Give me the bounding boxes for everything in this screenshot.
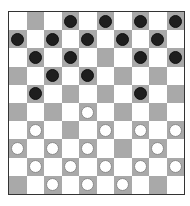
board-square-r6-c6 [114, 121, 132, 139]
board-square-r9-c4[interactable] [79, 176, 97, 194]
white-piece[interactable] [29, 160, 42, 173]
black-piece[interactable] [29, 87, 42, 100]
white-piece[interactable] [81, 106, 94, 119]
black-piece[interactable] [64, 15, 77, 28]
black-piece[interactable] [134, 87, 147, 100]
board-square-r5-c6[interactable] [114, 103, 132, 121]
board-square-r5-c4[interactable] [79, 103, 97, 121]
board-square-r8-c1[interactable] [27, 158, 45, 176]
board-square-r8-c4 [79, 158, 97, 176]
board-square-r2-c6 [114, 48, 132, 66]
board-square-r7-c6[interactable] [114, 139, 132, 157]
board-square-r2-c7[interactable] [132, 48, 150, 66]
board-square-r0-c3[interactable] [62, 12, 80, 30]
white-piece[interactable] [134, 160, 147, 173]
board-square-r1-c2[interactable] [44, 30, 62, 48]
white-piece[interactable] [81, 178, 94, 191]
board-square-r0-c1[interactable] [27, 12, 45, 30]
black-piece[interactable] [116, 33, 129, 46]
board-square-r4-c5[interactable] [97, 85, 115, 103]
board-square-r1-c1 [27, 30, 45, 48]
board-square-r6-c5[interactable] [97, 121, 115, 139]
board-square-r6-c8 [149, 121, 167, 139]
board-square-r3-c0[interactable] [9, 67, 27, 85]
black-piece[interactable] [134, 51, 147, 64]
board-square-r1-c4[interactable] [79, 30, 97, 48]
board-square-r5-c7 [132, 103, 150, 121]
board-square-r7-c0[interactable] [9, 139, 27, 157]
white-piece[interactable] [151, 142, 164, 155]
white-piece[interactable] [29, 124, 42, 137]
board-square-r8-c9[interactable] [167, 158, 185, 176]
board-square-r4-c9[interactable] [167, 85, 185, 103]
board-square-r5-c8[interactable] [149, 103, 167, 121]
white-piece[interactable] [46, 142, 59, 155]
board-square-r0-c0 [9, 12, 27, 30]
board-square-r9-c6[interactable] [114, 176, 132, 194]
board-square-r5-c9 [167, 103, 185, 121]
black-piece[interactable] [134, 15, 147, 28]
board-square-r6-c9[interactable] [167, 121, 185, 139]
board-square-r2-c3[interactable] [62, 48, 80, 66]
black-piece[interactable] [81, 69, 94, 82]
black-piece[interactable] [46, 69, 59, 82]
board-square-r3-c4[interactable] [79, 67, 97, 85]
white-piece[interactable] [116, 178, 129, 191]
white-piece[interactable] [99, 124, 112, 137]
board-square-r9-c0[interactable] [9, 176, 27, 194]
board-square-r0-c2 [44, 12, 62, 30]
white-piece[interactable] [64, 160, 77, 173]
board-square-r5-c2[interactable] [44, 103, 62, 121]
board-square-r2-c5[interactable] [97, 48, 115, 66]
board-square-r8-c7[interactable] [132, 158, 150, 176]
black-piece[interactable] [11, 33, 24, 46]
board-square-r3-c8[interactable] [149, 67, 167, 85]
white-piece[interactable] [134, 124, 147, 137]
board-square-r2-c1[interactable] [27, 48, 45, 66]
board-square-r1-c0[interactable] [9, 30, 27, 48]
board-square-r8-c5[interactable] [97, 158, 115, 176]
board-square-r4-c1[interactable] [27, 85, 45, 103]
board-square-r7-c8[interactable] [149, 139, 167, 157]
board-square-r2-c9[interactable] [167, 48, 185, 66]
board-square-r1-c6[interactable] [114, 30, 132, 48]
board-square-r1-c8[interactable] [149, 30, 167, 48]
white-piece[interactable] [81, 142, 94, 155]
board-square-r9-c5 [97, 176, 115, 194]
black-piece[interactable] [81, 33, 94, 46]
white-piece[interactable] [169, 160, 182, 173]
board-square-r5-c0[interactable] [9, 103, 27, 121]
board-square-r0-c9[interactable] [167, 12, 185, 30]
board-square-r0-c7[interactable] [132, 12, 150, 30]
board-square-r9-c3 [62, 176, 80, 194]
board-square-r6-c1[interactable] [27, 121, 45, 139]
white-piece[interactable] [46, 178, 59, 191]
board-square-r3-c6[interactable] [114, 67, 132, 85]
black-piece[interactable] [99, 15, 112, 28]
board-square-r7-c2[interactable] [44, 139, 62, 157]
board-square-r4-c3[interactable] [62, 85, 80, 103]
black-piece[interactable] [169, 51, 182, 64]
board-square-r3-c5 [97, 67, 115, 85]
board-square-r7-c4[interactable] [79, 139, 97, 157]
board-square-r4-c0 [9, 85, 27, 103]
board-square-r7-c9 [167, 139, 185, 157]
board-square-r2-c2 [44, 48, 62, 66]
board-square-r9-c8[interactable] [149, 176, 167, 194]
white-piece[interactable] [99, 160, 112, 173]
board-square-r6-c7[interactable] [132, 121, 150, 139]
board-square-r9-c2[interactable] [44, 176, 62, 194]
white-piece[interactable] [11, 142, 24, 155]
board-square-r3-c2[interactable] [44, 67, 62, 85]
black-piece[interactable] [29, 51, 42, 64]
black-piece[interactable] [46, 33, 59, 46]
board-square-r8-c3[interactable] [62, 158, 80, 176]
board-square-r0-c5[interactable] [97, 12, 115, 30]
board-square-r4-c7[interactable] [132, 85, 150, 103]
black-piece[interactable] [169, 15, 182, 28]
black-piece[interactable] [64, 51, 77, 64]
board-square-r6-c3[interactable] [62, 121, 80, 139]
black-piece[interactable] [151, 33, 164, 46]
board-square-r1-c9 [167, 30, 185, 48]
white-piece[interactable] [169, 124, 182, 137]
